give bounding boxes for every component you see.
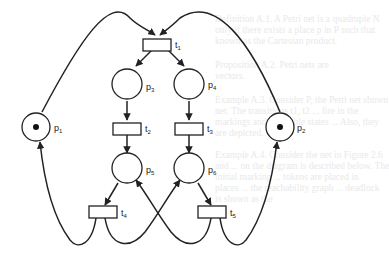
place-p5: p5 bbox=[112, 153, 155, 183]
arc-p1-t1 bbox=[42, 12, 155, 112]
place-label: p3 bbox=[146, 82, 155, 93]
transition-t3: t3 bbox=[175, 123, 214, 135]
arc-p5-t4 bbox=[105, 183, 118, 205]
place-label: p6 bbox=[208, 165, 217, 176]
arc-p6-t5 bbox=[198, 183, 211, 205]
transition-label: t5 bbox=[230, 208, 237, 219]
transition-label: t4 bbox=[121, 208, 128, 219]
place-label: p1 bbox=[54, 123, 63, 134]
transition-label: t3 bbox=[207, 124, 214, 135]
place-p2: p2 bbox=[266, 113, 306, 141]
arc-t5-p2 bbox=[220, 142, 277, 245]
arc-t1-p3 bbox=[136, 50, 152, 66]
arc-t1-p4 bbox=[168, 50, 184, 66]
transition-label: t1 bbox=[175, 40, 182, 51]
place-p4: p4 bbox=[174, 69, 217, 99]
place-label: p4 bbox=[208, 80, 217, 91]
place-p6: p6 bbox=[174, 153, 217, 183]
transition-t1: t1 bbox=[143, 39, 182, 51]
arc-t4-p1 bbox=[40, 142, 96, 245]
place-label: p5 bbox=[146, 165, 155, 176]
transition-label: t2 bbox=[145, 124, 152, 135]
transition-t2: t2 bbox=[113, 123, 152, 135]
place-p3: p3 bbox=[112, 69, 155, 99]
transition-t5: t5 bbox=[198, 206, 237, 219]
token bbox=[33, 124, 39, 130]
arc-p2-t1 bbox=[160, 12, 280, 112]
place-p1: p1 bbox=[22, 113, 63, 141]
token bbox=[277, 124, 283, 130]
transition-t4: t4 bbox=[89, 206, 128, 219]
place-label: p2 bbox=[297, 123, 306, 134]
